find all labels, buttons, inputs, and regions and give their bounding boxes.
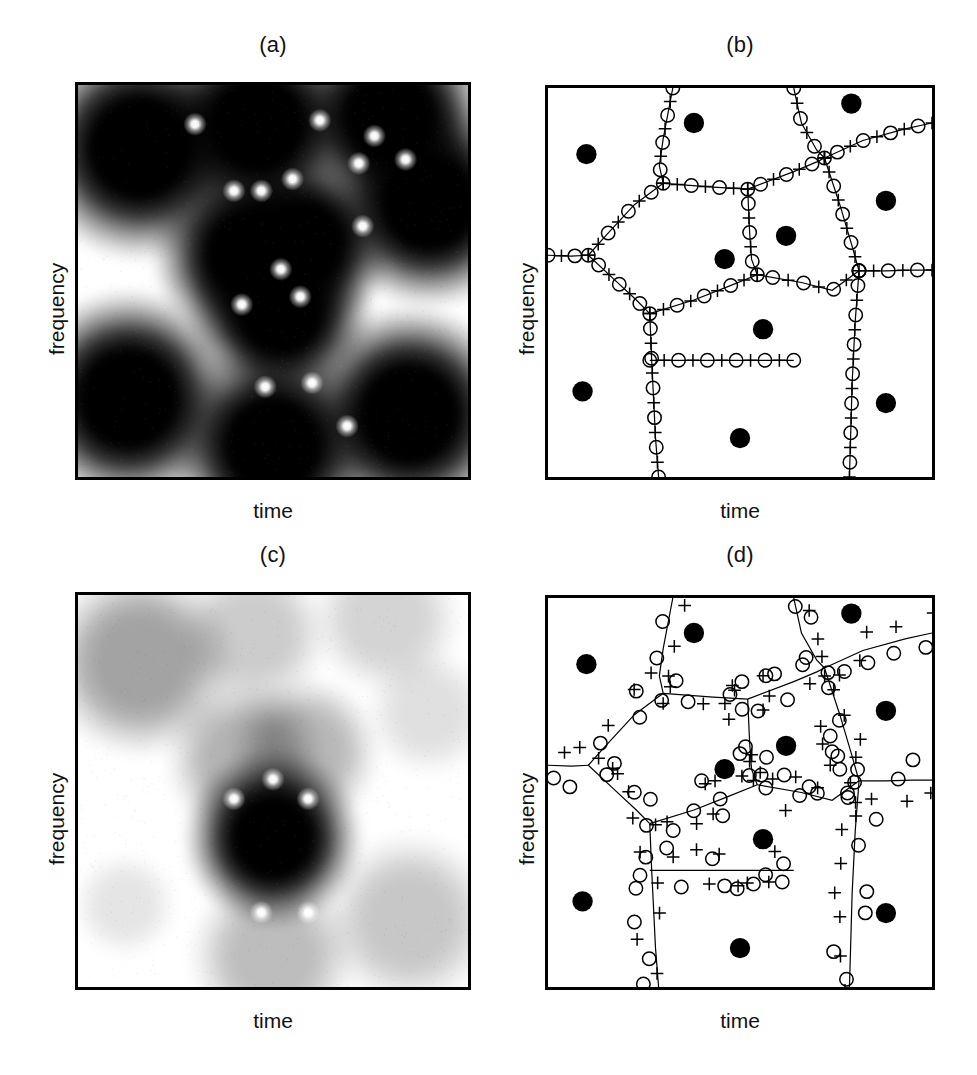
panel-b-plot bbox=[545, 85, 935, 480]
panel-group-b: (b) frequency time bbox=[0, 0, 977, 1075]
panel-letter-a: (a) bbox=[75, 34, 471, 56]
panel-a-ylabel: frequency bbox=[46, 263, 67, 355]
panel-d-ylabel: frequency bbox=[516, 773, 537, 865]
panel-d-plot bbox=[545, 595, 935, 990]
panel-group-c: (c) frequency time bbox=[0, 0, 977, 1075]
panel-letter-b: (b) bbox=[545, 34, 935, 56]
panel-b-xlabel: time bbox=[545, 500, 935, 521]
panel-c-xlabel: time bbox=[75, 1010, 471, 1031]
panel-a-plot bbox=[75, 82, 471, 480]
figure-root: (a) frequency time (b) frequency time (c… bbox=[0, 0, 977, 1075]
panel-group-d: (d) frequency time bbox=[0, 0, 977, 1075]
panel-c-ylabel: frequency bbox=[46, 773, 67, 865]
panel-c-plot bbox=[75, 592, 471, 990]
panel-b-ylabel: frequency bbox=[516, 263, 537, 355]
panel-group-a: (a) frequency time bbox=[0, 0, 977, 1075]
panel-letter-c: (c) bbox=[75, 544, 471, 566]
panel-letter-d: (d) bbox=[545, 544, 935, 566]
panel-d-xlabel: time bbox=[545, 1010, 935, 1031]
panel-a-xlabel: time bbox=[75, 500, 471, 521]
